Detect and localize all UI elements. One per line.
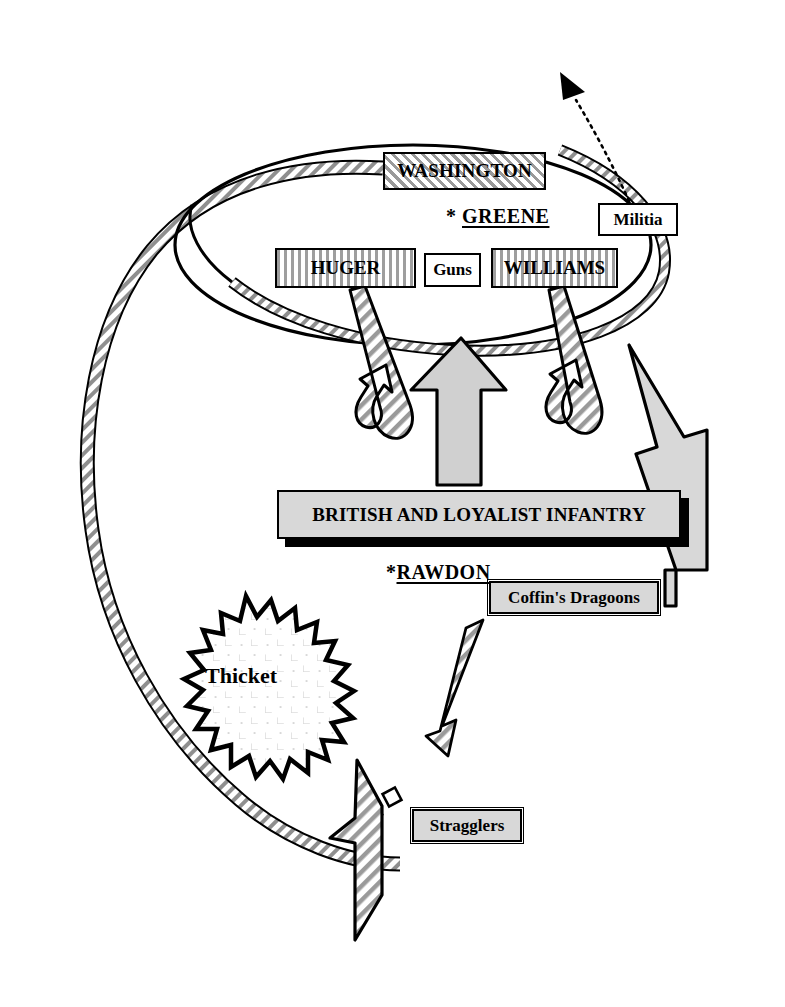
- commander-name-rawdon: RAWDON: [397, 561, 491, 583]
- unit-stragglers-label: Stragglers: [430, 816, 505, 836]
- unit-british-infantry-label: BRITISH AND LOYALIST INFANTRY: [312, 504, 646, 526]
- unit-williams-label: WILLIAMS: [504, 257, 605, 279]
- unit-guns-label: Guns: [433, 260, 472, 280]
- unit-militia[interactable]: Militia: [598, 203, 678, 236]
- commander-name-greene: GREENE: [462, 205, 549, 227]
- battle-map: ∟ ∟ • •: [0, 0, 785, 1007]
- commander-marker-rawdon: *: [386, 561, 397, 583]
- thicket-label-text: Thicket: [205, 663, 277, 688]
- unit-coffins-dragoons-label: Coffin's Dragoons: [508, 588, 640, 608]
- unit-stragglers[interactable]: Stragglers: [412, 809, 522, 842]
- unit-huger-label: HUGER: [311, 257, 381, 279]
- terrain-label-thicket: Thicket: [205, 663, 277, 689]
- williams-retreat-arrow: [546, 286, 602, 433]
- unit-williams[interactable]: WILLIAMS: [491, 248, 618, 288]
- unit-militia-label: Militia: [613, 210, 662, 230]
- unit-huger[interactable]: HUGER: [275, 248, 416, 288]
- coffin-flank-arrow: [629, 345, 707, 606]
- unit-washington-label: WASHINGTON: [397, 160, 532, 182]
- unit-washington[interactable]: WASHINGTON: [383, 152, 546, 190]
- unit-coffins-dragoons[interactable]: Coffin's Dragoons: [489, 581, 659, 614]
- unit-british-and-loyalist-infantry[interactable]: BRITISH AND LOYALIST INFANTRY: [277, 490, 681, 539]
- stragglers-advance-arrow: [366, 620, 483, 820]
- commander-label-greene: * GREENE: [446, 205, 549, 228]
- unit-guns[interactable]: Guns: [424, 253, 481, 287]
- commander-label-rawdon: *RAWDON: [386, 561, 491, 584]
- huger-retreat-arrow: [350, 286, 412, 438]
- commander-marker-greene: *: [446, 205, 457, 227]
- british-advance-arrow: [411, 338, 506, 485]
